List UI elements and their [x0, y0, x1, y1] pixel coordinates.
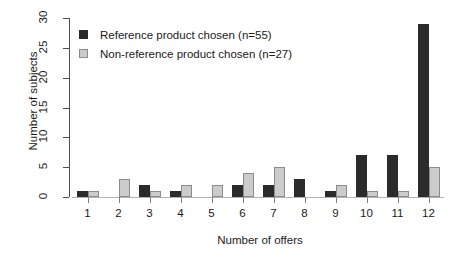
x-tick-5 [212, 197, 213, 203]
legend-swatch-dark-icon [79, 30, 88, 39]
x-tick-label-11: 11 [383, 207, 413, 219]
bar-non-reference-7 [274, 167, 285, 197]
bar-chart-figure: Number of subjects 051015202530 12345678… [0, 0, 462, 260]
bar-reference-12 [418, 24, 429, 197]
bar-non-reference-2 [119, 179, 130, 197]
x-tick-label-3: 3 [135, 207, 165, 219]
x-tick-2 [119, 197, 120, 203]
x-axis: 123456789101112 [70, 197, 450, 227]
bar-non-reference-9 [336, 185, 347, 197]
x-axis-title: Number of offers [70, 234, 450, 246]
y-tick-label-0: 0 [37, 183, 49, 209]
x-tick-label-2: 2 [104, 207, 134, 219]
y-tick-label-30: 30 [37, 4, 49, 30]
x-tick-label-4: 4 [166, 207, 196, 219]
y-tick-0 [63, 197, 69, 198]
bar-reference-7 [263, 185, 274, 197]
y-tick-25 [63, 48, 69, 49]
y-tick-label-15: 15 [37, 94, 49, 120]
legend-swatch-light-icon [79, 49, 88, 58]
x-tick-6 [243, 197, 244, 203]
bar-non-reference-5 [212, 185, 223, 197]
bar-non-reference-12 [429, 167, 440, 197]
y-tick-label-10: 10 [37, 123, 49, 149]
x-tick-label-5: 5 [197, 207, 227, 219]
y-tick-15 [63, 108, 69, 109]
y-tick-5 [63, 167, 69, 168]
bar-reference-11 [387, 155, 398, 197]
y-tick-30 [63, 18, 69, 19]
x-tick-11 [398, 197, 399, 203]
x-tick-label-7: 7 [259, 207, 289, 219]
x-tick-12 [429, 197, 430, 203]
x-axis-rule [72, 197, 444, 198]
x-tick-1 [88, 197, 89, 203]
x-tick-label-6: 6 [228, 207, 258, 219]
x-tick-label-1: 1 [73, 207, 103, 219]
x-tick-label-10: 10 [352, 207, 382, 219]
bar-reference-8 [294, 179, 305, 197]
legend-label-reference: Reference product chosen (n=55) [100, 29, 272, 41]
x-tick-label-8: 8 [290, 207, 320, 219]
y-tick-10 [63, 137, 69, 138]
bar-reference-10 [356, 155, 367, 197]
y-tick-label-25: 25 [37, 34, 49, 60]
x-tick-label-12: 12 [414, 207, 444, 219]
x-tick-7 [274, 197, 275, 203]
y-tick-20 [63, 78, 69, 79]
y-axis-tick-labels: 051015202530 [0, 18, 70, 197]
x-tick-9 [336, 197, 337, 203]
bar-reference-6 [232, 185, 243, 197]
bar-non-reference-4 [181, 185, 192, 197]
legend-item-reference: Reference product chosen (n=55) [79, 26, 292, 43]
legend-label-non-reference: Non-reference product chosen (n=27) [100, 48, 292, 60]
legend: Reference product chosen (n=55) Non-refe… [79, 26, 292, 64]
y-tick-label-20: 20 [37, 64, 49, 90]
x-tick-10 [367, 197, 368, 203]
y-tick-label-5: 5 [37, 153, 49, 179]
x-tick-8 [305, 197, 306, 203]
x-tick-label-9: 9 [321, 207, 351, 219]
x-tick-4 [181, 197, 182, 203]
x-tick-3 [150, 197, 151, 203]
legend-item-non-reference: Non-reference product chosen (n=27) [79, 45, 292, 62]
bar-reference-3 [139, 185, 150, 197]
bar-non-reference-6 [243, 173, 254, 197]
